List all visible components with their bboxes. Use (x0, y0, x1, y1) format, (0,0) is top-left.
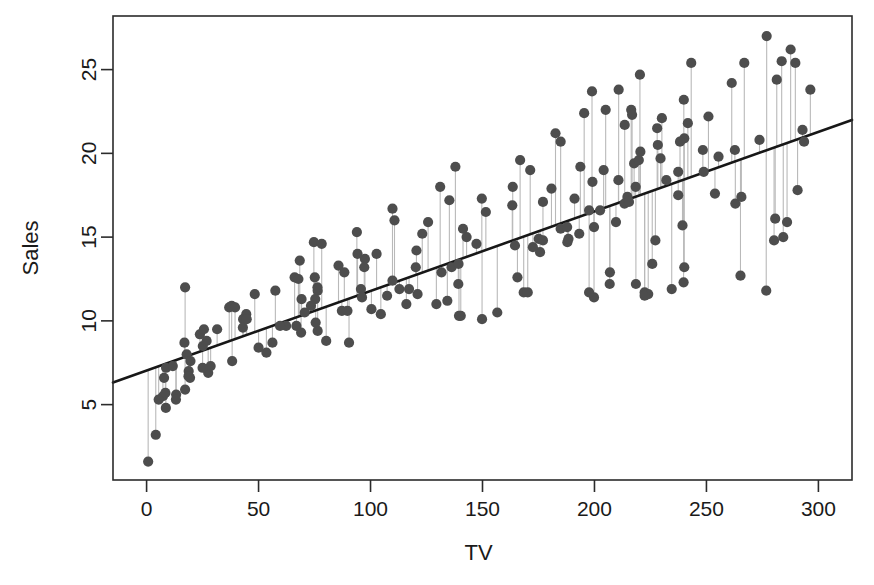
data-point (159, 373, 169, 383)
data-point (584, 205, 594, 215)
data-point (515, 155, 525, 165)
data-point (321, 336, 331, 346)
data-point (492, 307, 502, 317)
data-point (508, 182, 518, 192)
y-tick-label: 25 (78, 58, 101, 81)
data-point (575, 162, 585, 172)
data-point (653, 140, 663, 150)
data-point (151, 430, 161, 440)
data-point (453, 259, 463, 269)
residual-lines-group (148, 36, 810, 461)
data-point (337, 306, 347, 316)
data-point (366, 304, 376, 314)
data-point (180, 282, 190, 292)
data-point (677, 220, 687, 230)
data-point (635, 147, 645, 157)
data-point (431, 299, 441, 309)
data-point (556, 137, 566, 147)
data-point (655, 153, 665, 163)
data-point (546, 183, 556, 193)
data-point (435, 182, 445, 192)
y-tick-label: 20 (78, 142, 101, 165)
data-point (523, 287, 533, 297)
data-point (595, 205, 605, 215)
data-point (230, 302, 240, 312)
data-point (713, 152, 723, 162)
data-point (673, 190, 683, 200)
data-point (311, 317, 321, 327)
data-point (587, 177, 597, 187)
data-point (477, 193, 487, 203)
data-point (352, 227, 362, 237)
scatter-plot-figure: 050100150200250300510152025TVSales (0, 0, 874, 585)
data-point (792, 185, 802, 195)
data-point (357, 292, 367, 302)
data-point (698, 145, 708, 155)
data-point (562, 222, 572, 232)
data-point (312, 282, 322, 292)
data-point (605, 267, 615, 277)
data-point (293, 274, 303, 284)
x-tick-label: 0 (141, 497, 153, 520)
data-point (777, 56, 787, 66)
data-point (699, 167, 709, 177)
y-axis-title: Sales (18, 220, 43, 275)
data-point (450, 162, 460, 172)
data-point (686, 58, 696, 68)
data-point (404, 284, 414, 294)
data-point (703, 111, 713, 121)
data-point (242, 314, 252, 324)
data-point (199, 324, 209, 334)
data-point (605, 279, 615, 289)
data-point (601, 105, 611, 115)
regression-fit-line (113, 120, 852, 383)
data-point (762, 31, 772, 41)
data-point (411, 262, 421, 272)
data-point (772, 75, 782, 85)
data-point (563, 234, 573, 244)
data-point (778, 232, 788, 242)
x-axis-title: TV (464, 540, 492, 565)
data-point (797, 125, 807, 135)
data-point (442, 296, 452, 306)
data-points-group (143, 31, 815, 467)
data-point (799, 137, 809, 147)
data-point (736, 192, 746, 202)
x-tick-label: 200 (577, 497, 612, 520)
data-point (185, 356, 195, 366)
data-point (389, 215, 399, 225)
data-point (679, 262, 689, 272)
data-point (735, 271, 745, 281)
data-point (657, 113, 667, 123)
data-point (620, 120, 630, 130)
data-point (512, 272, 522, 282)
data-point (197, 363, 207, 373)
x-tick-label: 250 (689, 497, 724, 520)
data-point (481, 207, 491, 217)
data-point (371, 249, 381, 259)
data-point (401, 299, 411, 309)
x-tick-label: 50 (247, 497, 270, 520)
data-point (161, 403, 171, 413)
data-point (412, 289, 422, 299)
data-point (790, 58, 800, 68)
data-point (679, 277, 689, 287)
data-point (444, 195, 454, 205)
data-point (160, 388, 170, 398)
data-point (179, 338, 189, 348)
data-point (683, 118, 693, 128)
data-point (624, 197, 634, 207)
data-point (471, 239, 481, 249)
data-point (538, 197, 548, 207)
data-point (538, 235, 548, 245)
data-point (614, 85, 624, 95)
data-point (295, 255, 305, 265)
data-point (143, 456, 153, 466)
data-point (423, 217, 433, 227)
data-point (673, 167, 683, 177)
data-point (611, 217, 621, 227)
data-point (317, 239, 327, 249)
data-point (212, 324, 222, 334)
data-point (640, 291, 650, 301)
x-tick-label: 300 (801, 497, 836, 520)
